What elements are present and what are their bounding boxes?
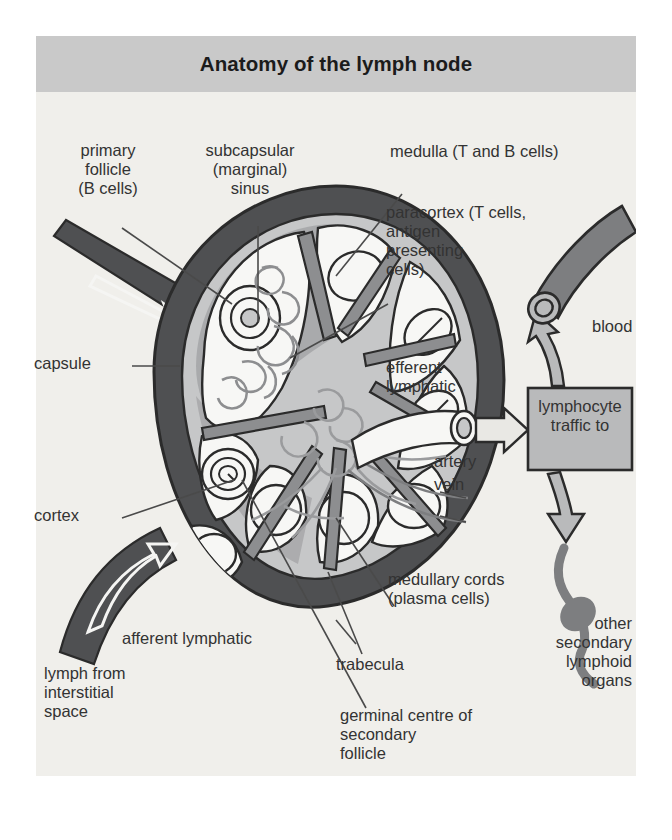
label-subcapsular-sinus: subcapsular (marginal) sinus <box>182 141 318 198</box>
box-to-organs-arrow <box>548 472 584 542</box>
label-trabecula: trabecula <box>336 655 496 674</box>
label-efferent-lymphatic: efferent lymphatic <box>386 358 516 396</box>
label-vein: vein <box>434 475 514 494</box>
germinal-centre-core <box>241 309 259 327</box>
label-medullary-cords: medullary cords (plasma cells) <box>388 570 588 608</box>
label-cortex: cortex <box>34 506 144 525</box>
lymph-node-figure: Anatomy of the lymph node <box>0 0 672 840</box>
label-lymphocyte-traffic: lymphocyte traffic to <box>528 397 632 435</box>
label-primary-follicle: primary follicle (B cells) <box>44 141 172 198</box>
label-artery: artery <box>434 452 514 471</box>
label-blood: blood <box>592 317 662 336</box>
label-germinal-centre: germinal centre of secondary follicle <box>340 706 570 763</box>
label-lymph-from-interstitial: lymph from interstitial space <box>44 664 204 721</box>
label-paracortex: paracortex (T cells, antigen presenting … <box>386 203 586 279</box>
label-medulla: medulla (T and B cells) <box>390 142 640 161</box>
label-other-secondary-organs: other secondary lymphoid organs <box>470 614 632 690</box>
label-afferent-lymphatic: afferent lymphatic <box>122 629 342 648</box>
label-capsule: capsule <box>34 354 144 373</box>
